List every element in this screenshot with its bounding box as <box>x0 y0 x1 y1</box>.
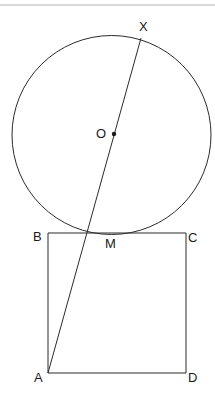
vertex-label-d: D <box>188 371 197 384</box>
vertex-label-a: A <box>34 371 43 384</box>
vertex-label-b: B <box>33 230 42 243</box>
vertex-label-c: C <box>188 231 197 244</box>
center-point-dot <box>112 132 116 136</box>
vertex-label-m: M <box>105 237 116 250</box>
geometry-canvas <box>0 0 215 404</box>
vertex-label-x: X <box>139 20 148 33</box>
line-segment-a-to-x <box>48 38 141 373</box>
square-abcd-outline <box>48 233 186 373</box>
circle-outline <box>12 36 211 235</box>
vertex-label-o: O <box>96 127 106 140</box>
geometry-figure: X O B M C A D <box>0 0 215 404</box>
